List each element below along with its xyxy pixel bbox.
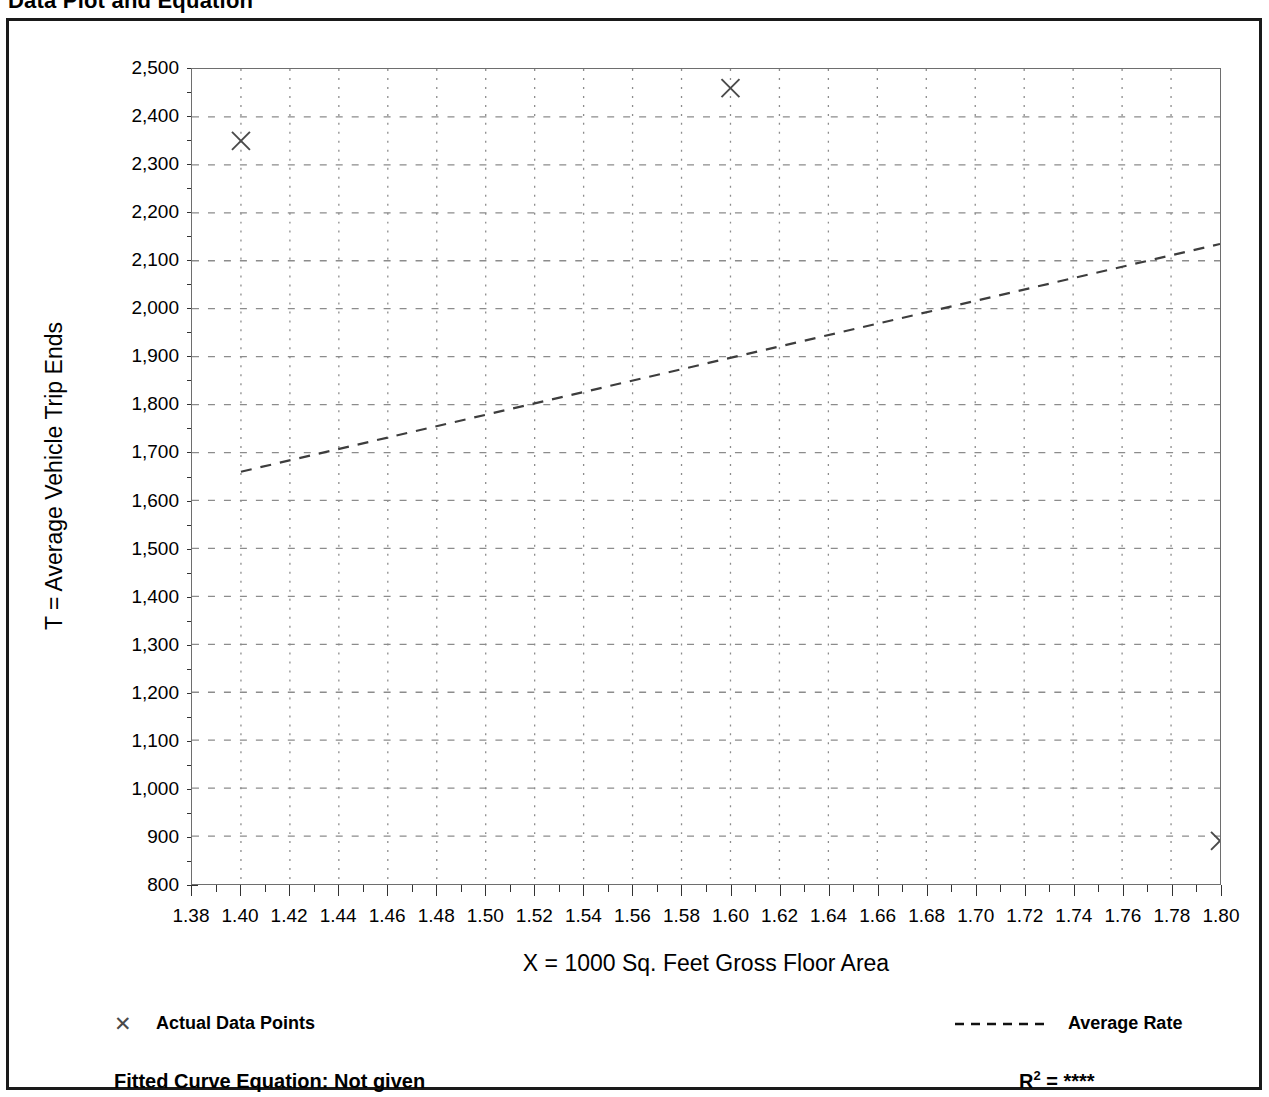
y-axis-title: T = Average Vehicle Trip Ends [41,322,68,630]
x-axis-minor-tick [510,885,511,892]
x-axis-tick-mark [240,885,241,896]
y-axis-tick-label: 1,400 [131,586,179,608]
x-axis-minor-tick [804,885,805,892]
x-axis-minor-tick [559,885,560,892]
x-axis-minor-tick [216,885,217,892]
y-axis-tick-label: 800 [147,874,179,896]
dashed-line-icon [954,1015,1046,1033]
y-axis-tick-label: 2,000 [131,297,179,319]
x-axis-tick-label: 1.60 [712,905,749,927]
x-axis-tick-mark [976,885,977,896]
x-axis-tick-label: 1.78 [1153,905,1190,927]
y-axis-tick-label: 1,700 [131,441,179,463]
x-axis-minor-tick [1147,885,1148,892]
y-axis-tick-label: 2,400 [131,105,179,127]
x-axis-minor-tick [657,885,658,892]
x-axis-tick-label: 1.44 [320,905,357,927]
x-axis-tick-label: 1.56 [614,905,651,927]
x-axis-minor-tick [314,885,315,892]
x-axis-tick-label: 1.68 [908,905,945,927]
x-axis-minor-tick [951,885,952,892]
y-axis-tick-label: 1,900 [131,345,179,367]
y-axis-tick-label: 1,600 [131,490,179,512]
x-axis-tick-label: 1.72 [1006,905,1043,927]
y-axis-tick-label: 1,100 [131,730,179,752]
x-axis-minor-tick [755,885,756,892]
x-axis-tick-label: 1.58 [663,905,700,927]
x-axis-tick-mark [534,885,535,896]
x-axis-minor-tick [265,885,266,892]
x-axis-tick-label: 1.52 [516,905,553,927]
x-axis-title: X = 1000 Sq. Feet Gross Floor Area [191,950,1221,977]
x-axis-tick-mark [1123,885,1124,896]
x-axis-tick-mark [583,885,584,896]
x-axis-tick-mark [338,885,339,896]
x-axis-tick-mark [1172,885,1173,896]
legend-item-average-rate: Average Rate [954,1013,1182,1034]
y-axis-tick-label: 2,100 [131,249,179,271]
y-axis-tick-label: 1,300 [131,634,179,656]
data-series-layer [192,69,1220,884]
legend-item-actual-data-points: ✕ Actual Data Points [114,1013,315,1034]
x-axis-tick-label: 1.64 [810,905,847,927]
y-axis-tick-label: 1,000 [131,778,179,800]
y-axis-tick-label: 900 [147,826,179,848]
x-axis-minor-tick [363,885,364,892]
y-axis-tick-label: 1,800 [131,393,179,415]
x-axis-tick-label: 1.50 [467,905,504,927]
x-axis-tick-label: 1.74 [1055,905,1092,927]
x-axis-minor-tick [706,885,707,892]
x-axis-tick-label: 1.42 [271,905,308,927]
x-axis-tick-mark [289,885,290,896]
y-axis-tick-label: 1,500 [131,538,179,560]
x-axis-tick-label: 1.46 [369,905,406,927]
r-squared-value: R2 = **** [1019,1068,1095,1093]
x-axis-minor-tick [412,885,413,892]
x-axis-tick-mark [632,885,633,896]
legend-label-actual-data-points: Actual Data Points [156,1013,315,1034]
legend-label-average-rate: Average Rate [1068,1013,1182,1034]
y-axis-tick-label: 2,200 [131,201,179,223]
x-axis-tick-label: 1.48 [418,905,455,927]
x-axis-tick-mark [780,885,781,896]
x-axis-minor-tick [853,885,854,892]
x-axis-tick-mark [436,885,437,896]
x-axis-tick-mark [927,885,928,896]
x-axis-minor-tick [461,885,462,892]
r2-symbol: R [1019,1070,1033,1092]
x-axis-tick-label: 1.40 [222,905,259,927]
x-axis-tick-label: 1.62 [761,905,798,927]
x-marker-icon: ✕ [114,1013,132,1034]
y-axis-tick-label: 2,300 [131,153,179,175]
x-axis-tick-mark [1025,885,1026,896]
x-axis-minor-tick [608,885,609,892]
y-axis-tick-labels: 8009001,0001,1001,2001,3001,4001,5001,60… [101,68,179,885]
x-axis-tick-mark [681,885,682,896]
x-axis-tick-label: 1.70 [957,905,994,927]
figure-frame: 8009001,0001,1001,2001,3001,4001,5001,60… [6,18,1262,1090]
x-axis-tick-mark [829,885,830,896]
r2-equals: = [1041,1070,1064,1092]
x-axis-ticks [191,885,1221,899]
x-axis-tick-mark [878,885,879,896]
r2-stars: **** [1063,1070,1094,1092]
y-axis-tick-label: 1,200 [131,682,179,704]
x-axis-tick-mark [731,885,732,896]
x-axis-minor-tick [1098,885,1099,892]
x-axis-tick-label: 1.76 [1104,905,1141,927]
x-axis-tick-label: 1.54 [565,905,602,927]
x-axis-tick-label: 1.66 [859,905,896,927]
x-axis-minor-tick [1196,885,1197,892]
x-axis-minor-tick [1049,885,1050,892]
x-axis-tick-label: 1.80 [1203,905,1240,927]
x-axis-tick-mark [1221,885,1222,896]
x-axis-tick-mark [485,885,486,896]
x-axis-tick-mark [1074,885,1075,896]
x-axis-minor-tick [1000,885,1001,892]
plot-area [191,68,1221,885]
x-axis-tick-mark [387,885,388,896]
y-axis-tick-label: 2,500 [131,57,179,79]
page-title: Data Plot and Equation [8,0,253,14]
fitted-curve-equation: Fitted Curve Equation: Not given [114,1070,425,1093]
r2-exponent: 2 [1033,1068,1040,1083]
